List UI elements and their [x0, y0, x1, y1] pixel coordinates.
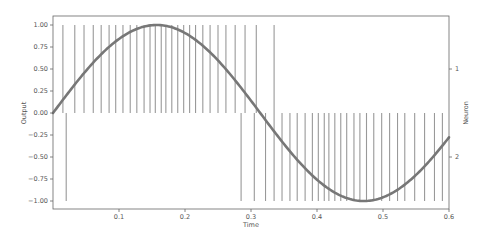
- x-tick-label: 0.4: [312, 213, 322, 221]
- y-axis-label: Output: [20, 101, 28, 124]
- x-axis-ticks: 0.10.20.30.40.50.6: [114, 209, 454, 221]
- y-tick-label: 0.75: [34, 43, 48, 51]
- y-tick-label: −0.75: [28, 175, 48, 183]
- spike-events: [63, 25, 443, 201]
- x-tick-label: 0.5: [378, 213, 388, 221]
- y-axis-ticks: 1.000.750.500.250.00−0.25−0.50−0.75−1.00: [28, 21, 53, 205]
- y-tick-label: 0.25: [34, 87, 48, 95]
- right-tick-label: 2: [455, 153, 459, 161]
- y-tick-label: 0.00: [34, 109, 48, 117]
- x-axis-label: Time: [242, 221, 259, 229]
- y-tick-label: −0.50: [28, 153, 48, 161]
- x-tick-label: 0.6: [444, 213, 454, 221]
- x-tick-label: 0.3: [246, 213, 256, 221]
- y-tick-label: −1.00: [28, 197, 48, 205]
- right-axis-label: Neuron: [462, 101, 470, 125]
- y-tick-label: −0.25: [28, 131, 48, 139]
- y-tick-label: 0.50: [34, 65, 48, 73]
- right-axis-ticks: 12: [449, 65, 459, 161]
- x-tick-label: 0.2: [180, 213, 190, 221]
- x-tick-label: 0.1: [114, 213, 124, 221]
- right-tick-label: 1: [455, 65, 459, 73]
- spike-raster-chart: 0.10.20.30.40.50.6 1.000.750.500.250.00−…: [0, 0, 488, 236]
- y-tick-label: 1.00: [34, 21, 48, 29]
